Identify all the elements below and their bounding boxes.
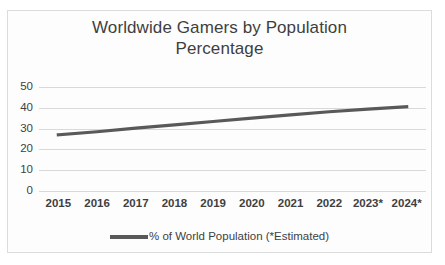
x-axis-tick-label: 2021 <box>278 197 304 210</box>
legend-label: % of World Population (*Estimated) <box>149 230 329 243</box>
x-axis-tick-label: 2017 <box>123 197 149 210</box>
plot-area: 01020304050 <box>39 87 426 191</box>
x-axis-tick-label: 2024* <box>392 197 422 210</box>
x-axis-tick-label: 2018 <box>162 197 188 210</box>
legend-swatch-icon <box>110 235 148 239</box>
chart-title-line-2: Percentage <box>8 38 431 59</box>
x-axis: 201520162017201820192020202120222023*202… <box>39 197 426 213</box>
x-axis-tick-label: 2016 <box>84 197 110 210</box>
x-axis-tick-label: 2020 <box>239 197 265 210</box>
gridline <box>39 191 426 192</box>
series-line-chart <box>39 87 426 191</box>
y-axis-tick-label: 50 <box>20 81 33 93</box>
y-axis-tick-label: 0 <box>27 185 33 197</box>
y-axis-tick-label: 30 <box>20 123 33 135</box>
y-axis-tick-label: 20 <box>20 144 33 156</box>
chart-container: Worldwide Gamers by Population Percentag… <box>7 10 432 253</box>
chart-title-line-1: Worldwide Gamers by Population <box>8 17 431 38</box>
x-axis-tick-label: 2022 <box>316 197 342 210</box>
y-axis-tick-label: 10 <box>20 164 33 176</box>
series-line-world-population <box>58 107 406 135</box>
x-axis-tick-label: 2015 <box>46 197 72 210</box>
x-axis-tick-label: 2019 <box>200 197 226 210</box>
x-axis-tick-label: 2023* <box>353 197 383 210</box>
chart-title: Worldwide Gamers by Population Percentag… <box>8 17 431 59</box>
chart-legend: % of World Population (*Estimated) <box>8 230 431 243</box>
y-axis-tick-label: 40 <box>20 102 33 114</box>
